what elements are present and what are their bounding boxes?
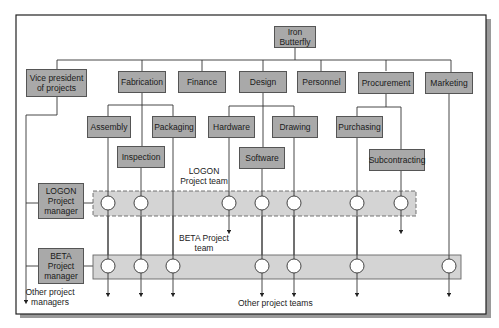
node-label: Software	[245, 153, 279, 163]
node-label: Finance	[187, 77, 217, 87]
node-logon-project-manager: LOGON Project manager	[38, 183, 84, 219]
node-assembly: Assembly	[87, 116, 131, 138]
node-label: Procurement	[362, 78, 411, 88]
node-vice-president: Vice president of projects	[26, 69, 87, 97]
node-label: Iron Butterfly	[275, 27, 315, 47]
node-label: Fabrication	[121, 77, 163, 87]
matrix-org-chart: Iron Butterfly Vice president of project…	[0, 0, 499, 328]
node-purchasing: Purchasing	[336, 116, 383, 138]
node-label: Marketing	[430, 78, 467, 88]
node-subcontracting: Subcontracting	[369, 149, 425, 171]
node-label: Packaging	[154, 122, 194, 132]
node-design: Design	[239, 71, 287, 93]
logon-team-label: LOGON Project team	[176, 166, 232, 186]
node-drawing: Drawing	[272, 116, 318, 138]
node-label: BETA Project manager	[43, 251, 79, 281]
node-label: Personnel	[302, 77, 340, 87]
node-label: Purchasing	[338, 122, 381, 132]
node-iron-butterfly: Iron Butterfly	[274, 26, 316, 48]
node-label: Drawing	[279, 122, 310, 132]
node-label: Vice president of projects	[27, 73, 86, 93]
other-managers-label: Other project managers	[22, 287, 78, 307]
node-label: Subcontracting	[369, 155, 426, 165]
node-software: Software	[239, 147, 285, 169]
node-fabrication: Fabrication	[118, 71, 166, 93]
node-label: LOGON Project manager	[43, 186, 79, 216]
node-marketing: Marketing	[425, 72, 473, 94]
node-label: Assembly	[91, 122, 128, 132]
other-teams-label: Other project teams	[238, 298, 313, 308]
node-label: Inspection	[122, 152, 161, 162]
node-finance: Finance	[178, 71, 226, 93]
node-hardware: Hardware	[208, 116, 255, 138]
node-beta-project-manager: BETA Project manager	[38, 248, 84, 284]
node-label: Hardware	[213, 122, 250, 132]
node-inspection: Inspection	[117, 146, 165, 168]
node-personnel: Personnel	[297, 71, 346, 93]
beta-team-label: BETA Project team	[176, 233, 232, 253]
node-label: Design	[250, 77, 276, 87]
node-procurement: Procurement	[358, 72, 414, 94]
node-packaging: Packaging	[152, 116, 196, 138]
